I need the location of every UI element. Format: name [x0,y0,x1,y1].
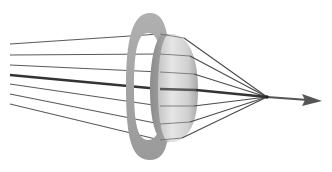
arrow-head-icon [302,94,322,106]
focal-point [265,95,269,99]
converging-lens [150,34,198,142]
optical-axis-arrow [267,94,322,106]
lens-diagram [0,0,332,172]
